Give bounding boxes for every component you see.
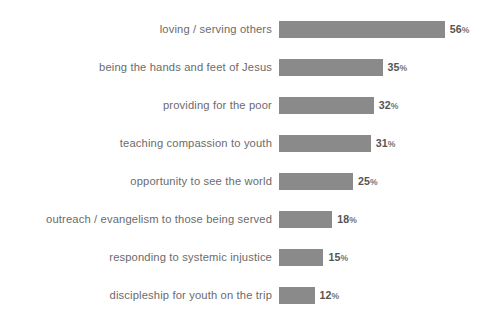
percent-sign: % — [349, 215, 357, 225]
bar-row: loving / serving others56% — [0, 21, 500, 38]
bar-chart: loving / serving others56%being the hand… — [0, 0, 500, 325]
bar-track: 18% — [279, 211, 357, 228]
bar-value-label: 25% — [358, 173, 378, 191]
bar-fill — [279, 59, 383, 76]
bar-fill — [279, 97, 374, 114]
bar-category-label: being the hands and feet of Jesus — [0, 59, 272, 76]
percent-sign: % — [388, 139, 396, 149]
bar-value-label: 15% — [328, 249, 348, 267]
bar-fill — [279, 211, 332, 228]
bar-row: providing for the poor32% — [0, 97, 500, 114]
bar-category-label: loving / serving others — [0, 21, 272, 38]
bar-fill — [279, 135, 371, 152]
bar-value-number: 32 — [379, 99, 391, 111]
bar-category-label: discipleship for youth on the trip — [0, 287, 272, 304]
bar-row: teaching compassion to youth31% — [0, 135, 500, 152]
bar-track: 31% — [279, 135, 395, 152]
bar-value-number: 18 — [337, 213, 349, 225]
percent-sign: % — [370, 177, 378, 187]
bar-value-number: 31 — [376, 137, 388, 149]
bar-value-label: 18% — [337, 211, 357, 229]
bar-category-label: opportunity to see the world — [0, 173, 272, 190]
bar-track: 12% — [279, 287, 339, 304]
bar-value-label: 12% — [320, 287, 340, 305]
bar-category-label: providing for the poor — [0, 97, 272, 114]
percent-sign: % — [391, 101, 399, 111]
bar-value-label: 32% — [379, 97, 399, 115]
bar-value-number: 56 — [450, 23, 462, 35]
bar-track: 35% — [279, 59, 407, 76]
bar-track: 15% — [279, 249, 348, 266]
bar-track: 25% — [279, 173, 378, 190]
percent-sign: % — [332, 291, 340, 301]
bar-value-label: 31% — [376, 135, 396, 153]
bar-row: responding to systemic injustice15% — [0, 249, 500, 266]
bar-track: 32% — [279, 97, 398, 114]
bar-category-label: teaching compassion to youth — [0, 135, 272, 152]
percent-sign: % — [340, 253, 348, 263]
bar-row: discipleship for youth on the trip12% — [0, 287, 500, 304]
bar-value-label: 56% — [450, 21, 470, 39]
bar-row: outreach / evangelism to those being ser… — [0, 211, 500, 228]
bar-row: opportunity to see the world25% — [0, 173, 500, 190]
bar-value-number: 15 — [328, 251, 340, 263]
bar-fill — [279, 173, 353, 190]
bar-value-number: 35 — [388, 61, 400, 73]
percent-sign: % — [462, 25, 470, 35]
bar-value-number: 25 — [358, 175, 370, 187]
bar-track: 56% — [279, 21, 469, 38]
bar-category-label: outreach / evangelism to those being ser… — [0, 211, 272, 228]
percent-sign: % — [400, 63, 408, 73]
bar-value-label: 35% — [388, 59, 408, 77]
bar-category-label: responding to systemic injustice — [0, 249, 272, 266]
bar-value-number: 12 — [320, 289, 332, 301]
bar-fill — [279, 287, 315, 304]
bar-fill — [279, 249, 323, 266]
bar-fill — [279, 21, 445, 38]
bar-row: being the hands and feet of Jesus35% — [0, 59, 500, 76]
